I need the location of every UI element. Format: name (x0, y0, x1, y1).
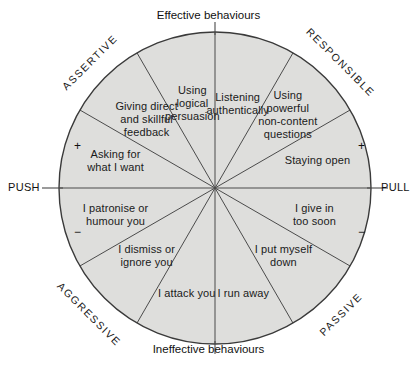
sector-label: Staying open (274, 154, 360, 167)
ineffective-behaviours-label: Ineffective behaviours (0, 343, 417, 355)
sign-minus-left: − (74, 226, 81, 238)
sector-label: I patronise or humour you (70, 202, 162, 228)
sector-label: I dismiss or ignore you (105, 243, 189, 269)
sector-label: I give in too soon (281, 202, 347, 228)
sector-label: Using powerful non-content questions (247, 89, 329, 141)
pull-axis-label: PULL (381, 181, 410, 193)
behaviour-wheel-diagram: Effective behaviours Ineffective behavio… (0, 0, 417, 365)
effective-behaviours-label: Effective behaviours (0, 9, 417, 21)
sector-label: Using logical persuasion (159, 84, 225, 123)
wheel-graphic (0, 0, 417, 365)
sign-minus-right: − (358, 226, 365, 238)
push-axis-label: PUSH (8, 181, 40, 193)
sector-label: I put myself down (244, 243, 322, 269)
sector-label: Asking for what I want (75, 148, 157, 174)
sign-plus-right: + (358, 140, 365, 152)
sector-label: I attack you (150, 287, 224, 300)
